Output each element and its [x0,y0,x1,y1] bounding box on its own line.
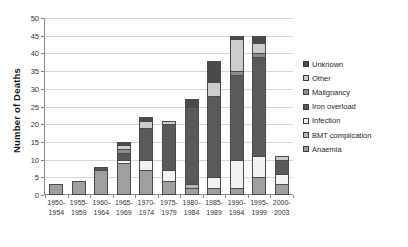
x-tick-mark [180,195,181,198]
bar-group [275,156,289,195]
x-tick-label-line: 2003 [270,208,293,218]
bar-segment-anaemia [139,170,153,195]
x-tick-label: 1970-1974 [135,198,158,218]
bar-segment-anaemia [275,184,289,195]
x-tick-label: 1950-1954 [45,198,68,218]
x-tick-label-line: 2000- [270,198,293,208]
legend-item-label: Infection [312,116,340,125]
x-tick-label-line: 1955- [68,198,91,208]
y-tick-label-40: 40 [31,49,39,58]
bar-group [72,181,86,195]
x-tick-mark [270,195,271,198]
stacked-bar-chart: Number of Deaths 05101520253035404550 19… [0,0,408,247]
x-tick-label: 1995-1999 [248,198,271,218]
x-tick-mark [203,195,204,198]
x-tick-label-line: 1965- [113,198,136,208]
x-axis-tick-labels: 1950-19541955-19591960-19641965-19691970… [45,198,293,238]
bar-segment-infection [139,160,153,171]
legend-item[interactable]: Other [303,71,406,85]
bar-segment-other [139,121,153,128]
legend-item[interactable]: Unknown [303,57,406,71]
x-tick-label-line: 1950- [45,198,68,208]
legend-item-label: Other [312,74,331,83]
x-tick-label-line: 1980- [180,198,203,208]
bar-group [185,99,199,195]
bar-segment-anaemia [252,177,266,195]
x-tick-mark [225,195,226,198]
bar-segment-infection [230,160,244,188]
legend-item[interactable]: Iron overload [303,100,406,114]
y-tick-mark-0 [41,195,44,196]
y-tick-label-10: 10 [31,155,39,164]
bar-segment-iron-overload [230,75,244,160]
legend-item[interactable]: Anaemia [303,142,406,156]
x-tick-mark [113,195,114,198]
legend-item-label: BMT complication [312,131,371,140]
legend-swatch-icon [303,104,309,110]
legend-item-label: Iron overload [312,102,356,111]
bar-segment-anaemia [162,181,176,195]
legend-item[interactable]: Infection [303,114,406,128]
x-tick-label-line: 1985- [203,198,226,208]
legend-swatch-icon [303,132,309,138]
x-tick-label-line: 1999 [248,208,271,218]
x-tick-label-line: 1960- [90,198,113,208]
x-tick-label: 1985-1989 [203,198,226,218]
bar-segment-other [230,39,244,71]
x-tick-label-line: 1970- [135,198,158,208]
y-tick-label-30: 30 [31,84,39,93]
legend-swatch-icon [303,61,309,67]
x-tick-label-line: 1954 [45,208,68,218]
y-tick-label-20: 20 [31,120,39,129]
x-tick-label-line: 1990- [225,198,248,208]
legend-swatch-icon [303,75,309,81]
x-tick-mark [135,195,136,198]
legend-item[interactable]: BMT complication [303,128,406,142]
bar-segment-unknown [185,99,199,106]
x-tick-label: 1955-1959 [68,198,91,218]
bar-segment-iron-overload [252,57,266,156]
bar-segment-anaemia [94,170,108,195]
legend-item-label: Unknown [312,60,343,69]
x-tick-label-line: 1964 [90,208,113,218]
x-tick-label-line: 1989 [203,208,226,218]
bar-segment-iron-overload [139,128,153,160]
bar-segment-infection [252,156,266,177]
bar-group [230,36,244,195]
bar-segment-anaemia [207,188,221,195]
y-tick-label-45: 45 [31,31,39,40]
bar-segment-anaemia [49,184,63,195]
x-tick-mark [293,195,294,198]
x-tick-label-line: 1984 [180,208,203,218]
legend-item-label: Malignancy [312,88,350,97]
x-tick-mark [158,195,159,198]
bar-segment-iron-overload [162,124,176,170]
chart-legend: UnknownOtherMalignancyIron overloadInfec… [303,57,406,156]
bar-group [117,142,131,195]
bar-segment-anaemia [230,188,244,195]
bar-segment-unknown [252,36,266,43]
bar-segment-iron-overload [117,153,131,160]
x-tick-label-line: 1995- [248,198,271,208]
x-tick-label: 1960-1964 [90,198,113,218]
bar-group [49,184,63,195]
x-tick-label-line: 1975- [158,198,181,208]
bars-layer [45,18,293,195]
x-tick-label: 2000-2003 [270,198,293,218]
x-tick-mark [90,195,91,198]
bar-segment-infection [275,174,289,185]
legend-item[interactable]: Malignancy [303,85,406,99]
x-tick-label: 1980-1984 [180,198,203,218]
y-axis-tick-labels: 05101520253035404550 [0,0,44,196]
bar-group [252,36,266,195]
x-tick-label: 1965-1969 [113,198,136,218]
x-tick-label-line: 1979 [158,208,181,218]
legend-swatch-icon [303,118,309,124]
y-tick-label-0: 0 [35,191,39,200]
bar-segment-other [207,82,221,96]
y-tick-label-50: 50 [31,14,39,23]
bar-segment-iron-overload [275,160,289,174]
bar-group [139,117,153,195]
legend-item-label: Anaemia [312,145,342,154]
x-tick-label: 1975-1979 [158,198,181,218]
